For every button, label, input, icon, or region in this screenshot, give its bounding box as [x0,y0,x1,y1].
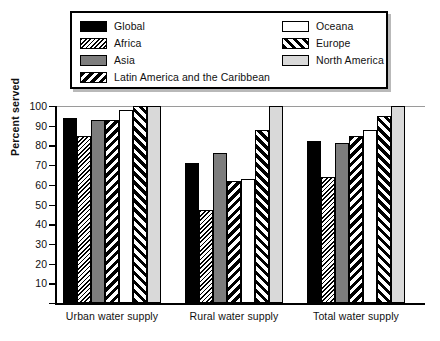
legend-item-asia: Asia [80,52,270,68]
bar-1-6 [269,106,283,303]
legend-swatch-europe [282,38,309,49]
bar-1-2 [213,153,227,303]
bar-2-2 [335,143,349,303]
legend-swatch-africa [80,38,107,49]
y-axis-tick-50 [49,205,55,206]
bar-group-1 [185,106,283,303]
bar-1-3 [227,181,241,303]
y-axis-tick-label-40: 40 [35,219,47,229]
bar-2-4 [363,130,377,303]
bar-1-0 [185,163,199,303]
y-axis-tick-label-100: 100 [29,101,47,111]
y-axis-tick-70 [49,165,55,166]
x-axis-tick-label-0: Urban water supply [41,310,183,322]
legend-item-latin: Latin America and the Caribbean [80,69,270,85]
x-axis-tick-label-2: Total water supply [285,310,427,322]
bar-2-6 [391,106,405,303]
legend-swatch-oceana [282,21,309,32]
y-axis-tick-label-10: 10 [35,278,47,288]
bar-2-3 [349,136,363,303]
y-axis-tick-30 [49,244,55,245]
y-axis-tick-90 [49,126,55,127]
bar-2-0 [307,141,321,303]
bar-1-4 [241,179,255,303]
bar-0-5 [133,106,147,303]
legend-label-europe: Europe [316,38,350,49]
bar-1-5 [255,130,269,303]
y-axis-tick-100 [49,106,55,107]
x-axis-baseline [55,303,425,305]
bar-0-6 [147,106,161,303]
y-axis-tick-10 [49,283,55,284]
y-axis-tick-80 [49,145,55,146]
legend-label-asia: Asia [114,55,135,66]
legend-label-global: Global [114,21,145,32]
legend-column-left: GlobalAfricaAsiaLatin America and the Ca… [80,18,270,86]
y-axis-tick-20 [49,264,55,265]
bar-0-0 [63,118,77,303]
y-axis-tick-60 [49,185,55,186]
legend-swatch-north [282,55,309,66]
y-axis-title: Percent served [9,78,21,156]
y-axis-tick-label-60: 60 [35,180,47,190]
legend-swatch-asia [80,55,107,66]
y-axis-tick-label-50: 50 [35,200,47,210]
legend-label-africa: Africa [114,38,141,49]
bar-1-1 [199,210,213,303]
legend-label-north: North America [316,55,384,66]
bar-0-3 [105,120,119,303]
y-axis-tick-label-80: 80 [35,140,47,150]
y-axis-tick-40 [49,224,55,225]
bar-group-2 [307,106,405,303]
legend-swatch-latin [80,72,107,83]
bar-0-2 [91,120,105,303]
legend-item-north: North America [282,52,392,68]
legend-item-europe: Europe [282,35,392,51]
bar-2-5 [377,116,391,303]
chart-legend: GlobalAfricaAsiaLatin America and the Ca… [70,11,388,89]
bar-0-1 [77,136,91,303]
y-axis-tick-label-20: 20 [35,259,47,269]
legend-item-global: Global [80,18,270,34]
legend-column-right: OceanaEuropeNorth America [282,18,392,69]
legend-item-africa: Africa [80,35,270,51]
bar-2-1 [321,177,335,303]
y-axis-tick-label-90: 90 [35,121,47,131]
y-axis-tick-label-70: 70 [35,160,47,170]
x-axis-tick-label-1: Rural water supply [163,310,305,322]
legend-label-latin: Latin America and the Caribbean [114,72,270,83]
bar-0-4 [119,110,133,303]
legend-item-oceana: Oceana [282,18,392,34]
bar-group-0 [63,106,161,303]
legend-label-oceana: Oceana [316,21,353,32]
bar-chart-plot-area: Percent served 102030405060708090100Urba… [55,106,425,304]
legend-swatch-global [80,21,107,32]
y-axis-tick-0 [49,303,55,304]
y-axis-tick-label-30: 30 [35,239,47,249]
y-axis-line [55,106,57,304]
